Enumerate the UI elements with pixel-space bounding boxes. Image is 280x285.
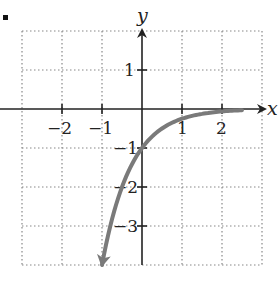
problem-bullet [3, 15, 8, 20]
x-tick-label: 2 [216, 118, 227, 138]
x-tick-label: −1 [88, 118, 113, 138]
y-axis-label: y [136, 4, 148, 26]
y-tick-label: −1 [113, 138, 138, 158]
y-tick-label: 1 [124, 60, 135, 80]
x-tick-label: −2 [47, 118, 72, 138]
x-axis-label: x [267, 97, 278, 119]
y-tick-label: −3 [113, 216, 138, 236]
graph: x y −2 −1 1 2 1 −1 −2 −3 [0, 0, 280, 285]
